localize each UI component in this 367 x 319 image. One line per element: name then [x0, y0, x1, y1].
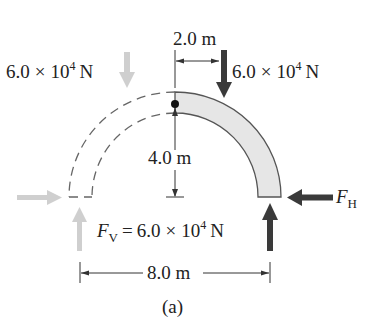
offset-dimension — [175, 50, 219, 88]
span-label: 8.0 m — [147, 262, 191, 283]
left-load-label: 6.0×104N — [6, 59, 93, 82]
left-horizontal-reaction-arrow — [17, 190, 62, 205]
arch-right-half — [175, 92, 281, 197]
crown-pin-dot — [171, 100, 179, 108]
arch-diagram: 4.0 m 2.0 m 6.0×104N 6.0×104N FH — [0, 0, 367, 319]
left-vertical-reaction-arrow — [72, 207, 87, 251]
horizontal-reaction-label: FH — [335, 186, 357, 211]
height-label: 4.0 m — [148, 147, 192, 168]
offset-label: 2.0 m — [173, 28, 217, 49]
figure-caption: (a) — [162, 296, 183, 318]
right-load-label: 6.0×104N — [232, 59, 319, 82]
arch-left-half-dashed — [69, 92, 175, 197]
horizontal-reaction-arrow — [287, 189, 333, 206]
right-load-arrow — [216, 50, 232, 98]
vertical-reaction-arrow — [262, 203, 278, 251]
left-load-arrow — [119, 52, 135, 88]
vertical-reaction-label: FV=6.0×104N — [96, 218, 224, 245]
